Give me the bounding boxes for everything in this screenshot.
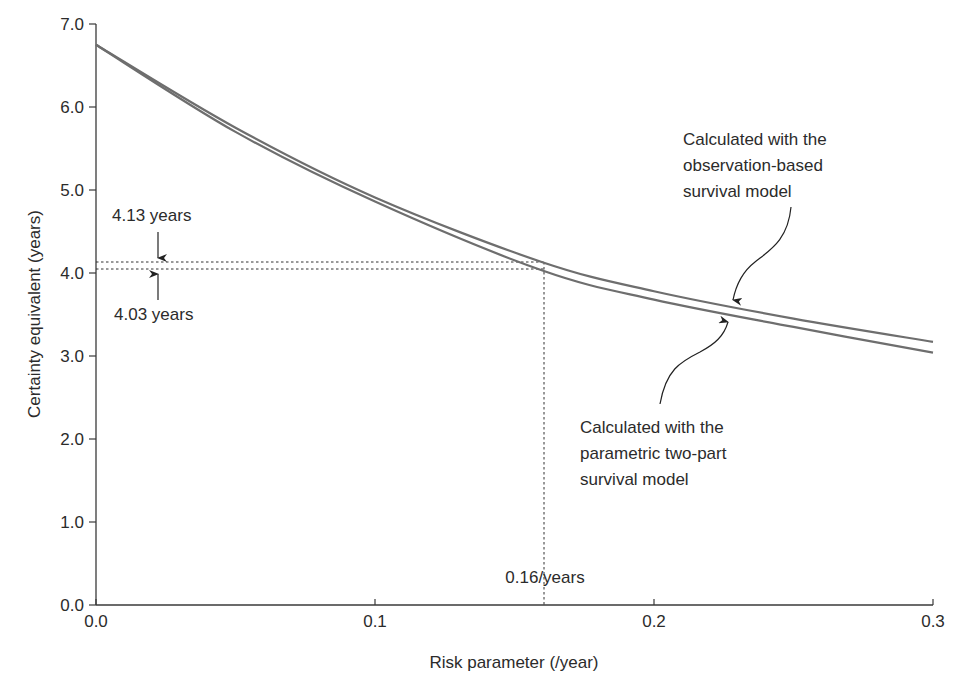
param-pointer-arrow-icon [660,322,728,404]
param-annotation: Calculated with the parametric two-part … [580,322,728,489]
risk-marker-label: 0.16/years [505,568,584,587]
upper-value-label: 4.13 years [112,206,191,225]
obs-label-line2: observation-based [683,156,823,175]
curves [96,45,933,353]
obs-annotation: Calculated with the observation-based su… [683,130,827,300]
y-tick-label: 3.0 [60,347,84,366]
observation-based-curve [96,45,933,342]
param-label-line1: Calculated with the [580,418,724,437]
lower-value-label: 4.03 years [114,305,193,324]
parametric-curve [96,45,933,353]
obs-label-line3: survival model [683,182,792,201]
y-ticks: 0.01.02.03.04.05.06.07.0 [60,15,96,615]
x-tick-label: 0.3 [921,612,945,631]
x-tick-label: 0.1 [363,612,387,631]
param-label-line2: parametric two-part [580,444,727,463]
obs-label-line1: Calculated with the [683,130,827,149]
y-tick-label: 7.0 [60,15,84,34]
y-tick-label: 4.0 [60,264,84,283]
y-tick-label: 2.0 [60,430,84,449]
param-label-line3: survival model [580,470,689,489]
y-tick-label: 6.0 [60,98,84,117]
y-axis-title: Certainty equivalent (years) [25,210,44,418]
x-tick-label: 0.0 [84,612,108,631]
x-axis-title: Risk parameter (/year) [429,653,598,672]
y-tick-label: 1.0 [60,513,84,532]
y-tick-label: 0.0 [60,596,84,615]
chart: 0.01.02.03.04.05.06.07.0 0.00.10.20.3 Ri… [0,0,962,688]
x-tick-label: 0.2 [642,612,666,631]
x-ticks: 0.00.10.20.3 [84,599,945,631]
obs-pointer-arrow-icon [733,207,791,300]
y-tick-label: 5.0 [60,181,84,200]
